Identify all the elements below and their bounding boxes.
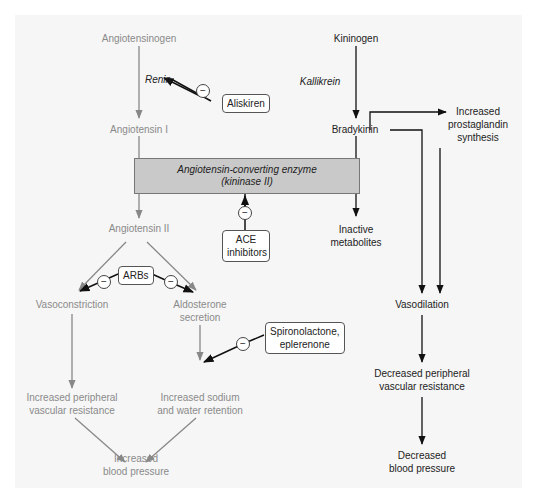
prostaglandin-line2: prostaglandin — [448, 118, 508, 131]
inactive-line1: Inactive — [330, 223, 381, 236]
angiotensin-i-label: Angiotensin I — [110, 123, 168, 136]
sodium-line2: and water retention — [157, 404, 243, 417]
ibp-line2: blood pressure — [103, 465, 169, 478]
ace-inhibitors-box: ACE inhibitors — [222, 230, 270, 262]
arbs-box: ARBs — [118, 266, 154, 285]
kininogen-label: Kininogen — [334, 32, 378, 45]
ace-enzyme-box: Angiotensin-converting enzyme (kininase … — [134, 158, 360, 194]
decreased-pvr-label: Decreased peripheral vascular resistance — [374, 367, 470, 393]
vasoconstriction-label: Vasoconstriction — [36, 298, 109, 311]
inactive-line2: metabolites — [330, 236, 381, 249]
inhibit-renin-icon: − — [196, 84, 210, 98]
prostaglandin-line1: Increased — [448, 105, 508, 118]
ace-line1: ACE — [227, 233, 265, 246]
aldosterone-line2: secretion — [173, 311, 226, 324]
spironolactone-box: Spironolactone, eplerenone — [265, 322, 345, 354]
ace-line2: inhibitors — [227, 246, 265, 259]
ipvr-line1: Increased peripheral — [26, 391, 117, 404]
prostaglandin-label: Increased prostaglandin synthesis — [448, 105, 508, 144]
ibp-line1: Increased — [103, 452, 169, 465]
inhibit-vasoconstriction-icon: − — [97, 275, 111, 289]
renin-label: Renin — [145, 73, 171, 86]
ipvr-line2: vascular resistance — [26, 404, 117, 417]
prostaglandin-line3: synthesis — [448, 131, 508, 144]
decreased-bp-label: Decreased blood pressure — [389, 449, 455, 475]
vasodilation-label: Vasodilation — [395, 298, 449, 311]
spiro-line1: Spironolactone, — [270, 325, 340, 338]
aldosterone-line1: Aldosterone — [173, 298, 226, 311]
aldosterone-secretion-label: Aldosterone secretion — [173, 298, 226, 324]
bradykinin-label: Bradykinin — [332, 123, 379, 136]
enzyme-line1: Angiotensin-converting enzyme — [177, 164, 317, 176]
increased-bp-label: Increased blood pressure — [103, 452, 169, 478]
sodium-line1: Increased sodium — [157, 391, 243, 404]
inhibit-ace-icon: − — [238, 206, 252, 220]
increased-pvr-label: Increased peripheral vascular resistance — [26, 391, 117, 417]
spiro-line2: eplerenone — [270, 338, 340, 351]
dpvr-line2: vascular resistance — [374, 380, 470, 393]
dbp-line1: Decreased — [389, 449, 455, 462]
dpvr-line1: Decreased peripheral — [374, 367, 470, 380]
enzyme-line2: (kininase II) — [221, 176, 273, 188]
dbp-line2: blood pressure — [389, 462, 455, 475]
inhibit-sodium-retention-icon: − — [236, 337, 250, 351]
aliskiren-box: Aliskiren — [222, 94, 270, 113]
inactive-metabolites-label: Inactive metabolites — [330, 223, 381, 249]
angiotensin-ii-label: Angiotensin II — [109, 222, 170, 235]
inhibit-aldosterone-icon: − — [164, 275, 178, 289]
increased-sodium-label: Increased sodium and water retention — [157, 391, 243, 417]
kallikrein-label: Kallikrein — [300, 75, 341, 88]
angiotensinogen-label: Angiotensinogen — [102, 32, 177, 45]
